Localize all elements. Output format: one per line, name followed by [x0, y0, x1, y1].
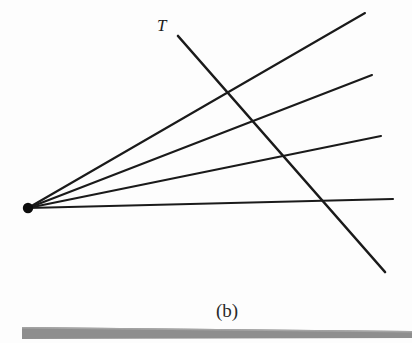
figure-container: T (b) [0, 0, 412, 343]
geometry-figure-svg: T (b) [0, 0, 412, 343]
transversal-label-T: T [157, 16, 168, 35]
figure-caption-label: (b) [216, 300, 238, 322]
vertex-point-dot [23, 203, 33, 213]
